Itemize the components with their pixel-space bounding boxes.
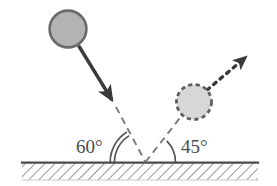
ground-surface bbox=[22, 163, 258, 180]
reflection-angle-label: 45° bbox=[181, 136, 208, 157]
incoming-velocity-vector bbox=[79, 46, 113, 101]
outgoing-velocity-vector bbox=[207, 57, 246, 90]
outgoing-ball bbox=[177, 85, 212, 120]
incoming-ball bbox=[50, 11, 87, 48]
incidence-angle-arc bbox=[110, 132, 129, 162]
ground-hatch-fill bbox=[22, 164, 258, 181]
physics-diagram-svg: 60° 45° bbox=[0, 0, 277, 186]
incoming-ball-body bbox=[50, 11, 87, 48]
incoming-dashed-extension bbox=[116, 107, 146, 162]
outgoing-ball-body bbox=[177, 85, 212, 120]
physics-diagram-root: 60° 45° bbox=[0, 0, 277, 186]
outgoing-dashed-segment bbox=[146, 114, 184, 162]
incidence-angle-label: 60° bbox=[76, 136, 103, 157]
reflection-angle-arc bbox=[167, 141, 176, 162]
